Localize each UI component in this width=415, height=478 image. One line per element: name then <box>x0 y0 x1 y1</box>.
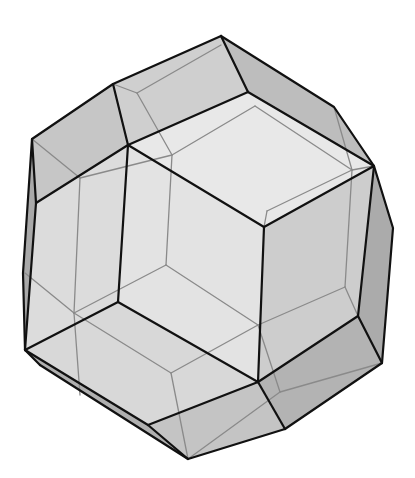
polyhedron-figure <box>0 0 415 478</box>
faces <box>23 36 393 459</box>
rhombic-dodecahedron-drawing <box>0 0 415 478</box>
